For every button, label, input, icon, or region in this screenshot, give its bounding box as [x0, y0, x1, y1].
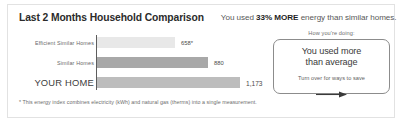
bar-your-home	[97, 77, 240, 88]
bar-efficient-similar-homes	[97, 37, 175, 48]
chart-row: Efficient Similar Homes 658*	[8, 36, 266, 49]
header-summary: You used 33% MORE energy than similar ho…	[221, 13, 397, 22]
bar-similar-homes	[97, 57, 208, 68]
callout-hint: Turn over for ways to save	[298, 75, 365, 81]
summary-prefix: You used	[221, 13, 256, 22]
summary-suffix: energy than similar homes.	[298, 13, 396, 22]
callout-caption: How you're doing:	[273, 30, 390, 36]
comparison-card: Last 2 Months Household Comparison You u…	[7, 4, 395, 118]
status-badge: You used more than average	[302, 46, 362, 67]
status-line-1: You used more	[302, 46, 362, 57]
chart-row: YOUR HOME 1,173	[8, 76, 266, 89]
comparison-bar-chart: Efficient Similar Homes 658* Similar Hom…	[8, 32, 266, 92]
callout-box: You used more than average Turn over for…	[273, 39, 390, 94]
energy-comparison-widget: Last 2 Months Household Comparison You u…	[0, 0, 405, 130]
bar-label: Efficient Similar Homes	[35, 40, 94, 46]
page-title: Last 2 Months Household Comparison	[19, 12, 204, 23]
arrow-right-icon	[315, 84, 349, 102]
summary-highlight: 33% MORE	[256, 13, 298, 22]
footnote: * This energy index combines electricity…	[19, 99, 257, 105]
bar-label: YOUR HOME	[34, 77, 94, 88]
chart-row: Similar Homes 880	[8, 56, 266, 69]
status-callout: How you're doing: You used more than ave…	[273, 30, 390, 94]
bar-value: 658*	[181, 40, 193, 46]
bar-value: 880	[214, 60, 224, 66]
status-line-2: than average	[302, 57, 362, 68]
bar-value: 1,173	[246, 80, 263, 87]
card-header: Last 2 Months Household Comparison You u…	[8, 5, 394, 30]
bar-label: Similar Homes	[57, 60, 94, 66]
